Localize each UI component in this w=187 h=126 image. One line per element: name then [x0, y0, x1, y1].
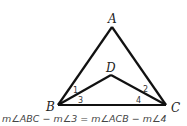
angle-2-label: 2 [143, 85, 148, 94]
label-b: B [45, 100, 55, 114]
label-c: C [171, 101, 180, 115]
segment-ac [112, 27, 166, 105]
segment-bd [58, 75, 111, 105]
label-d: D [105, 61, 116, 75]
angle-1-label: 1 [73, 86, 78, 95]
equation-caption: m∠ABC − m∠3 = m∠ACB − m∠4 [2, 113, 166, 124]
angle-3-label: 3 [78, 96, 83, 105]
angle-4-label: 4 [136, 96, 141, 105]
triangle-diagram: A D B C 1 2 3 4 m∠ABC − m∠3 = m∠ACB − m∠… [0, 0, 187, 126]
segment-ab [58, 27, 112, 105]
label-a: A [107, 12, 117, 26]
